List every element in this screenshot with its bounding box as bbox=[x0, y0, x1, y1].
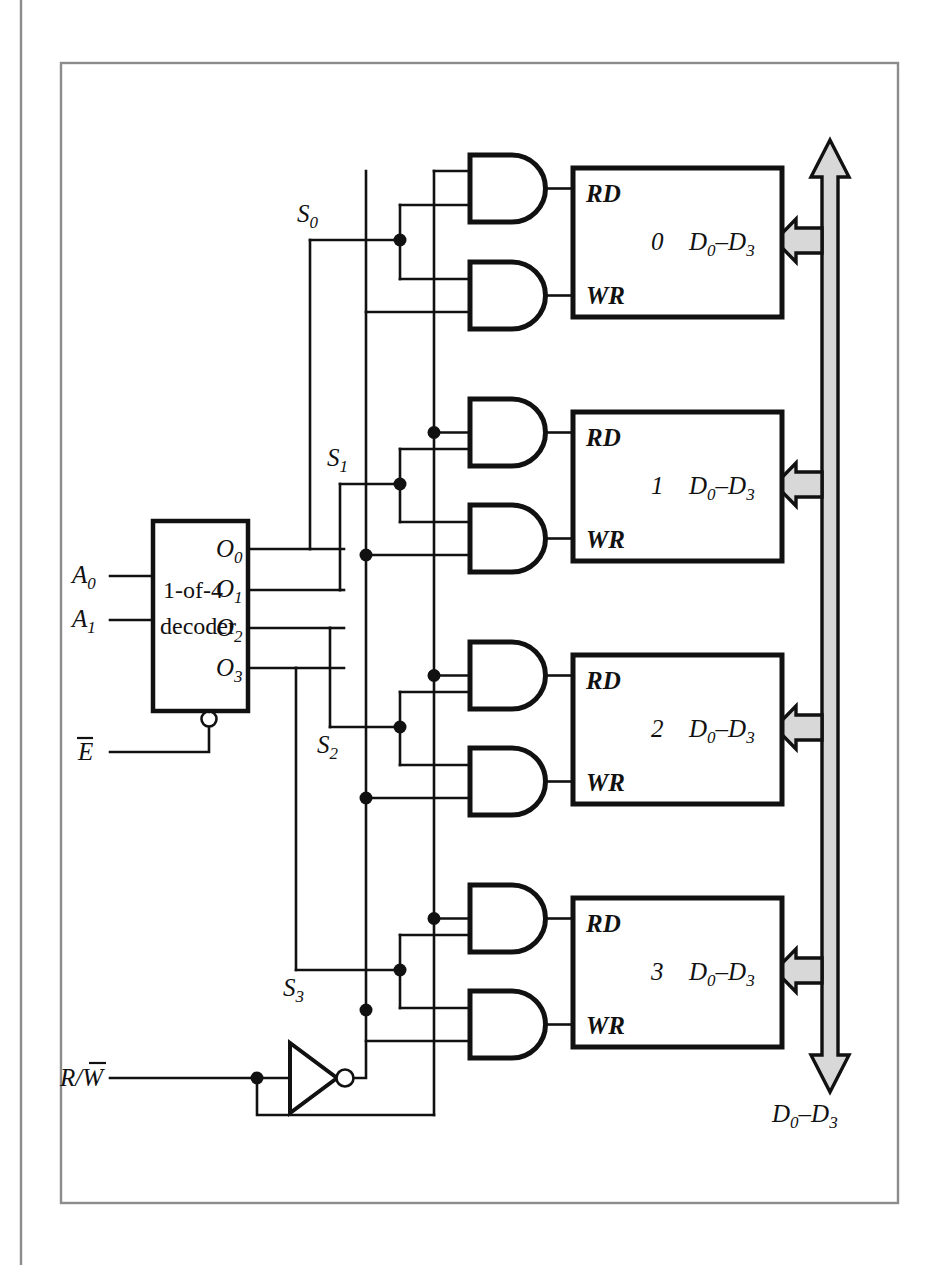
and-gate-rd-3[interactable] bbox=[470, 885, 545, 952]
and-gate-rd-1[interactable] bbox=[470, 399, 545, 466]
decoder-enable-text: E bbox=[77, 738, 93, 765]
read-write-text: R/W bbox=[59, 1064, 105, 1091]
memory-block-3-rd-label: RD bbox=[585, 910, 621, 937]
and-gate-rd-2-body[interactable] bbox=[470, 642, 545, 709]
and-gate-wr-2[interactable] bbox=[470, 748, 545, 815]
memory-block-1-rd-label: RD bbox=[585, 424, 621, 451]
and-gate-rd-2[interactable] bbox=[470, 642, 545, 709]
memory-block-0-wr-label: WR bbox=[586, 282, 625, 309]
memory-block-3-id: 3 bbox=[650, 958, 664, 985]
bus-label-sub-hi: 3 bbox=[828, 1113, 838, 1132]
memory-block-2-id: 2 bbox=[651, 715, 664, 742]
and-gate-wr-1-body[interactable] bbox=[470, 505, 545, 572]
and-gate-wr-1[interactable] bbox=[470, 505, 545, 572]
and-gate-wr-3-body[interactable] bbox=[470, 991, 545, 1058]
memory-block-2-rd-label: RD bbox=[585, 667, 621, 694]
and-gate-wr-0-body[interactable] bbox=[470, 262, 545, 329]
memory-block-0-rd-label: RD bbox=[585, 180, 621, 207]
decoder-enable-bubble bbox=[202, 712, 217, 727]
memory-block-3[interactable]: RD WR 3 D0–D3 bbox=[573, 898, 782, 1047]
memory-block-2-wr-label: WR bbox=[586, 769, 625, 796]
junction-read-rail-2 bbox=[428, 669, 441, 682]
junction-s1 bbox=[394, 478, 407, 491]
junction-write-rail-2 bbox=[360, 792, 373, 805]
decoder-enable-label: E bbox=[77, 738, 93, 765]
memory-block-2[interactable]: RD WR 2 D0–D3 bbox=[573, 655, 782, 804]
junction-s2 bbox=[394, 721, 407, 734]
memory-block-0-id: 0 bbox=[651, 228, 664, 255]
memory-block-3-wr-label: WR bbox=[586, 1012, 625, 1039]
and-gate-wr-3[interactable] bbox=[470, 991, 545, 1058]
junction-read-rail-1 bbox=[428, 426, 441, 439]
bus-label-base2: D bbox=[810, 1100, 829, 1127]
not-gate-bubble bbox=[337, 1070, 354, 1087]
and-gate-wr-2-body[interactable] bbox=[470, 748, 545, 815]
memory-block-1-id: 1 bbox=[651, 472, 664, 499]
memory-block-1[interactable]: RD WR 1 D0–D3 bbox=[573, 412, 782, 561]
junction-s3 bbox=[394, 964, 407, 977]
bus-label-base: D bbox=[771, 1100, 790, 1127]
memory-block-1-wr-label: WR bbox=[586, 526, 625, 553]
decoder-title-line1: 1-of-4 bbox=[163, 577, 223, 603]
and-gate-rd-0[interactable] bbox=[470, 155, 545, 222]
junction-read-rail-3 bbox=[428, 912, 441, 925]
figure-root: D0–D3 RD WR 0 D0–D3 RD WR 1 D0–D3 RD WR … bbox=[0, 0, 943, 1265]
bus-label-dash: – bbox=[798, 1100, 812, 1127]
and-gate-rd-1-body[interactable] bbox=[470, 399, 545, 466]
and-gate-wr-0[interactable] bbox=[470, 262, 545, 329]
junction-write-rail-1 bbox=[360, 549, 373, 562]
memory-block-0[interactable]: RD WR 0 D0–D3 bbox=[573, 168, 782, 317]
and-gate-rd-0-body[interactable] bbox=[470, 155, 545, 222]
and-gate-rd-3-body[interactable] bbox=[470, 885, 545, 952]
junction-s0 bbox=[394, 234, 407, 247]
read-write-label: R/W bbox=[59, 1063, 106, 1091]
